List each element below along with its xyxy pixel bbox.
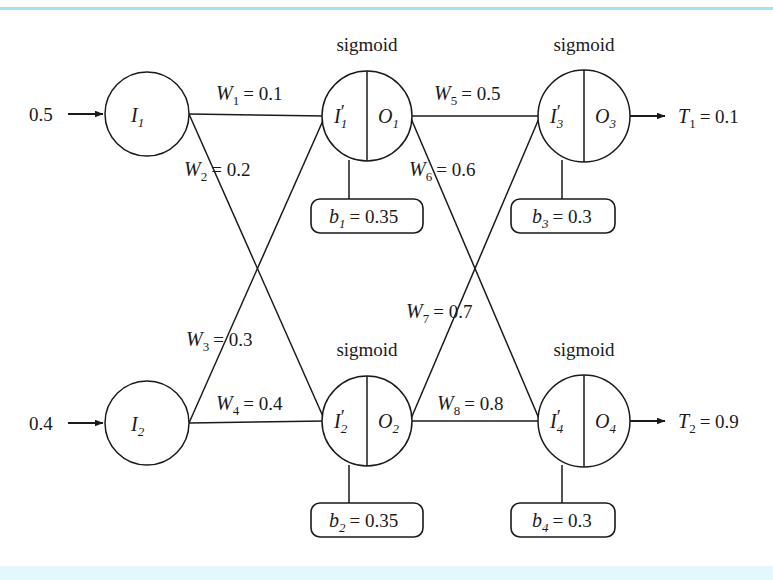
bias-eq-b4: = 0.3 [553,510,592,531]
weight-label-w4: W4= 0.4 [216,392,283,418]
node-hidden-2-out-base: O [378,410,392,432]
weight-sub-w3: 3 [203,339,210,354]
weight-sub-w6: 6 [426,169,433,184]
weight-eq-w4: = 0.4 [243,393,283,414]
target-eq-1: = 0.1 [700,106,739,127]
weight-sub-w2: 2 [201,169,208,184]
edge-i1-h2 [189,114,325,421]
weight-label-w1: W1= 0.1 [216,82,282,108]
weight-label-w5: W5= 0.5 [434,82,500,108]
node-hidden-1-net-sub: 1 [341,116,348,131]
sigmoid-label-o1: sigmoid [553,34,615,55]
weight-label-w8: W8= 0.8 [437,392,503,418]
bias-eq-b3: = 0.3 [553,206,592,227]
node-hidden-1-out-base: O [378,105,392,127]
bias-sub-b2: 2 [339,520,346,535]
bias-sub-b3: 3 [541,216,549,231]
weight-eq-w3: = 0.3 [213,329,252,350]
target-label-2: T2= 0.9 [678,410,739,436]
target-sub-1: 1 [689,116,696,131]
node-hidden-2-net-sub: 2 [341,421,348,436]
node-output-1-out-sub: 3 [608,116,616,131]
node-output-2-out-base: O [595,410,609,432]
target-label-1: T1= 0.1 [678,105,739,131]
bias-sub-b4: 4 [542,520,549,535]
node-input-1 [105,72,189,156]
sigmoid-label-h2: sigmoid [336,339,398,360]
weight-sub-w8: 8 [454,403,461,418]
node-output-1-net-sub: 3 [556,116,564,131]
edge-i2-h1 [189,116,325,423]
node-input-1-sub: 1 [138,115,145,130]
weight-eq-w7: = 0.7 [433,301,472,322]
sigmoid-label-h1: sigmoid [336,34,398,55]
weight-eq-w2: = 0.2 [211,159,250,180]
bias-base-b4: b [532,509,542,531]
weight-sub-w4: 4 [233,403,240,418]
node-output-2-net-sub: 4 [557,421,564,436]
node-hidden-1-out-sub: 1 [392,116,399,131]
node-output-1-out-base: O [595,105,609,127]
weight-eq-w8: = 0.8 [464,393,503,414]
weight-label-w3: W3= 0.3 [186,328,252,354]
sigmoid-label-o2: sigmoid [553,339,615,360]
input-value-1: 0.5 [29,104,53,125]
weight-sub-w1: 1 [233,93,240,108]
network-diagram: 0.5 0.4 T1= 0.1 T2= 0.9 I1 I2 sigmoid I′… [0,0,773,580]
weight-eq-w1: = 0.1 [243,83,282,104]
weight-label-w6: W6= 0.6 [409,158,475,184]
input-value-2: 0.4 [29,413,53,434]
node-output-2-out-sub: 4 [609,421,616,436]
weight-label-w7: W7= 0.7 [406,300,472,326]
bias-sub-b1: 1 [339,216,346,231]
target-sub-2: 2 [689,421,696,436]
figure-canvas: 0.5 0.4 T1= 0.1 T2= 0.9 I1 I2 sigmoid I′… [0,0,773,580]
weight-eq-w5: = 0.5 [461,83,500,104]
node-input-2 [105,381,189,465]
bias-base-b1: b [329,205,339,227]
edge-i2-h2 [189,421,325,423]
weight-sub-w7: 7 [423,311,430,326]
bias-base-b2: b [329,509,339,531]
weight-label-w2: W2= 0.2 [184,158,250,184]
bias-eq-b2: = 0.35 [350,510,399,531]
weight-eq-w6: = 0.6 [436,159,475,180]
node-hidden-2-out-sub: 2 [392,421,399,436]
node-input-2-sub: 2 [138,424,145,439]
target-eq-2: = 0.9 [700,411,739,432]
bias-base-b3: b [532,205,542,227]
edge-i1-h1 [189,114,325,116]
weight-sub-w5: 5 [451,93,458,108]
bias-eq-b1: = 0.35 [350,206,399,227]
